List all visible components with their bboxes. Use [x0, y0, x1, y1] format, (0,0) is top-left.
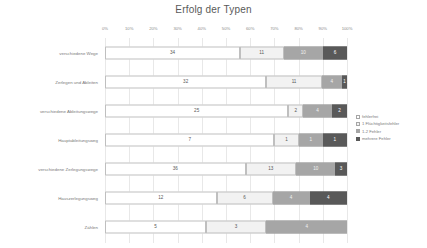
bar-segment-value: 2 — [338, 108, 341, 113]
bar-segment[interactable]: 32 — [105, 75, 266, 88]
bar-segment-value: 3 — [340, 166, 343, 171]
category-label: Zählen — [85, 224, 98, 229]
bar-segment[interactable]: 4 — [273, 191, 310, 204]
legend-swatch-icon — [356, 137, 360, 141]
bar-segment[interactable]: 10 — [284, 46, 324, 59]
stacked-bar[interactable]: 7111 — [105, 133, 347, 146]
bar-segment-value: 36 — [173, 166, 178, 171]
bar-segment[interactable]: 5 — [105, 220, 206, 233]
bar-segment-value: 4 — [316, 108, 319, 113]
bar-segment[interactable]: 25 — [105, 104, 288, 117]
x-axis-tick-50: 50% — [222, 26, 230, 31]
bar-segment-value: 3 — [235, 224, 238, 229]
x-axis-tick-30: 30% — [173, 26, 181, 31]
x-axis-tick-70: 70% — [270, 26, 278, 31]
x-axis-tick-80: 80% — [294, 26, 302, 31]
bar-segment-value: 13 — [268, 166, 273, 171]
category-label: verschiedene Ableitungswege — [40, 108, 98, 113]
bar-segment-value: 10 — [301, 50, 306, 55]
bar-segment-value: 4 — [305, 224, 308, 229]
bar-segment[interactable]: 13 — [246, 162, 297, 175]
bar-segment[interactable]: 1 — [342, 75, 347, 88]
category-label: Hauptableitungsweg — [58, 137, 98, 142]
legend-item[interactable]: 1 Flüchtigkeitsfehler — [356, 121, 399, 126]
category-label: verschiedene Wege — [59, 50, 98, 55]
bar-segment[interactable]: 1 — [274, 133, 298, 146]
bar-segment-value: 1 — [343, 79, 346, 84]
chart-row: verschiedene Wege3411106 — [0, 38, 427, 67]
legend-label: mehrere Fehler — [362, 136, 391, 141]
stacked-bar[interactable]: 3411106 — [105, 46, 347, 59]
stacked-bar[interactable]: 25242 — [105, 104, 347, 117]
category-label: verschiedene Zerlegungswege — [38, 166, 98, 171]
bar-segment[interactable]: 12 — [105, 191, 217, 204]
bar-segment[interactable]: 34 — [105, 46, 240, 59]
chart-row: verschiedene Zerlegungswege3613103 — [0, 154, 427, 183]
bar-segment[interactable]: 1 — [323, 133, 347, 146]
x-axis-tick-labels: 0%10%20%30%40%50%60%70%80%90%100% — [105, 26, 347, 36]
bar-segment-value: 1 — [334, 137, 337, 142]
bar-segment[interactable]: 36 — [105, 162, 246, 175]
bar-segment-value: 11 — [259, 50, 264, 55]
bar-segment-value: 10 — [313, 166, 318, 171]
bar-segment-value: 12 — [158, 195, 163, 200]
bar-segment[interactable]: 11 — [240, 46, 284, 59]
stacked-bar[interactable]: 534 — [105, 220, 347, 233]
bar-segment-value: 1 — [309, 137, 312, 142]
bar-segment[interactable]: 3 — [335, 162, 347, 175]
bar-segment[interactable]: 4 — [266, 220, 347, 233]
legend-swatch-icon — [356, 129, 360, 133]
legend-item[interactable]: mehrere Fehler — [356, 136, 399, 141]
chart-legend: fehlerfrei1 Flüchtigkeitsfehler1-2 Fehle… — [356, 114, 399, 141]
bar-segment-value: 5 — [154, 224, 157, 229]
legend-swatch-icon — [356, 115, 360, 119]
bar-segment[interactable]: 7 — [105, 133, 274, 146]
category-label: Zerlegen und Ableiten — [55, 79, 98, 84]
bar-segment-value: 6 — [243, 195, 246, 200]
bar-segment[interactable]: 2 — [332, 104, 347, 117]
bar-segment[interactable]: 1 — [299, 133, 323, 146]
bar-segment[interactable]: 3 — [206, 220, 267, 233]
x-axis-tick-40: 40% — [198, 26, 206, 31]
x-axis-tick-90: 90% — [319, 26, 327, 31]
x-axis-tick-20: 20% — [149, 26, 157, 31]
chart-title: Erfolg der Typen — [0, 4, 427, 15]
legend-label: 1-2 Fehler — [362, 129, 381, 134]
bar-segment-value: 2 — [294, 108, 297, 113]
legend-swatch-icon — [356, 122, 360, 126]
legend-label: fehlerfrei — [362, 114, 378, 119]
bar-segment[interactable]: 11 — [266, 75, 321, 88]
bar-segment[interactable]: 4 — [310, 191, 347, 204]
legend-item[interactable]: 1-2 Fehler — [356, 129, 399, 134]
bar-segment-value: 4 — [290, 195, 293, 200]
x-axis-tick-60: 60% — [246, 26, 254, 31]
bar-segment[interactable]: 2 — [288, 104, 303, 117]
bar-segment-value: 1 — [285, 137, 288, 142]
chart-row: Zählen534 — [0, 212, 427, 241]
legend-item[interactable]: fehlerfrei — [356, 114, 399, 119]
x-axis-tick-10: 10% — [125, 26, 133, 31]
bar-segment[interactable]: 4 — [303, 104, 332, 117]
bar-segment-value: 34 — [170, 50, 175, 55]
chart-row: Zerlegen und Ableiten321141 — [0, 67, 427, 96]
bar-segment[interactable]: 6 — [323, 46, 347, 59]
x-axis-tick-100: 100% — [342, 26, 353, 31]
bar-segment-value: 7 — [188, 137, 191, 142]
bar-segment-value: 4 — [327, 195, 330, 200]
bar-segment-value: 25 — [194, 108, 199, 113]
bar-segment[interactable]: 6 — [217, 191, 273, 204]
legend-label: 1 Flüchtigkeitsfehler — [362, 121, 399, 126]
stacked-bar[interactable]: 321141 — [105, 75, 347, 88]
x-axis-tick-0: 0% — [102, 26, 108, 31]
bar-segment-value: 4 — [331, 79, 334, 84]
bar-segment-value: 6 — [334, 50, 337, 55]
bar-segment[interactable]: 4 — [322, 75, 342, 88]
chart-container: Erfolg der Typen 0%10%20%30%40%50%60%70%… — [0, 0, 427, 248]
chart-row: Hauszerlegungsweg12644 — [0, 183, 427, 212]
bar-segment-value: 32 — [183, 79, 188, 84]
bar-segment-value: 11 — [292, 79, 297, 84]
stacked-bar[interactable]: 3613103 — [105, 162, 347, 175]
category-label: Hauszerlegungsweg — [58, 195, 98, 200]
stacked-bar[interactable]: 12644 — [105, 191, 347, 204]
bar-segment[interactable]: 10 — [296, 162, 335, 175]
